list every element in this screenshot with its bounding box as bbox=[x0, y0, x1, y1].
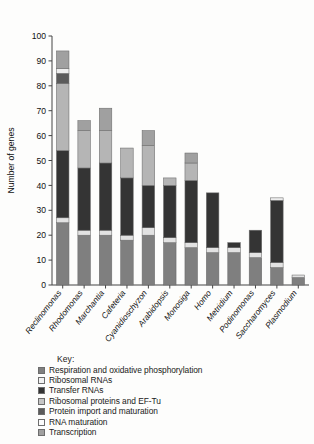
legend-swatch-icon bbox=[38, 419, 45, 426]
y-axis-tick-label: 50 bbox=[36, 156, 46, 166]
bar-segment bbox=[78, 121, 91, 131]
legend-item: Ribosomal RNAs bbox=[38, 375, 308, 385]
y-axis-tick-label: 10 bbox=[36, 255, 46, 265]
bar-segment bbox=[56, 223, 68, 285]
y-axis-tick-label: 30 bbox=[36, 205, 46, 215]
bar-segment bbox=[56, 218, 68, 223]
y-axis-tick-label: 60 bbox=[36, 131, 46, 141]
bar-segment bbox=[249, 253, 261, 258]
legend-swatch-icon bbox=[38, 377, 45, 384]
bar-segment bbox=[271, 198, 284, 200]
bar-segment bbox=[206, 193, 219, 248]
bar-stack bbox=[99, 108, 112, 285]
bar-segment bbox=[271, 268, 284, 285]
bar-stack bbox=[249, 230, 261, 285]
chart-legend: Key: Respiration and oxidative phosphory… bbox=[0, 348, 314, 444]
legend-item-label: Transcription bbox=[49, 428, 96, 437]
bar-stack bbox=[56, 51, 68, 285]
legend-swatch-icon bbox=[38, 408, 45, 415]
bar-segment bbox=[142, 228, 155, 235]
bar-segment bbox=[99, 235, 112, 285]
legend-item-label: Ribosomal RNAs bbox=[49, 376, 112, 385]
legend-item: RNA maturation bbox=[38, 417, 308, 427]
bar-segment bbox=[56, 83, 68, 150]
bar-stack bbox=[78, 121, 91, 285]
legend-item: Respiration and oxidative phosphorylatio… bbox=[38, 365, 308, 375]
bar-segment bbox=[99, 131, 112, 163]
bar-stack bbox=[228, 243, 241, 285]
y-axis-tick-label: 80 bbox=[36, 81, 46, 91]
bar-segment bbox=[185, 248, 198, 285]
legend-swatch-icon bbox=[38, 398, 45, 405]
bar-segment bbox=[185, 243, 198, 248]
bar-segment bbox=[164, 178, 177, 185]
bar-stack bbox=[164, 178, 177, 285]
bar-segment bbox=[206, 248, 219, 253]
legend-item-label: Transfer RNAs bbox=[49, 386, 103, 395]
legend-item: Transfer RNAs bbox=[38, 386, 308, 396]
bar-segment bbox=[56, 73, 68, 83]
bar-segment bbox=[78, 230, 91, 235]
chart-canvas: 0102030405060708090100Number of genesRec… bbox=[0, 0, 314, 348]
bar-segment bbox=[164, 238, 177, 243]
bar-stack bbox=[142, 131, 155, 285]
bar-segment bbox=[121, 235, 134, 240]
bar-segment bbox=[164, 185, 177, 237]
bar-segment bbox=[121, 240, 134, 285]
bar-segment bbox=[164, 243, 177, 285]
bar-segment bbox=[78, 235, 91, 285]
legend-swatch-icon bbox=[38, 367, 45, 374]
legend-swatch-icon bbox=[38, 429, 45, 436]
bar-stack bbox=[185, 153, 198, 285]
legend-item-label: RNA maturation bbox=[49, 418, 107, 427]
bar-segment bbox=[228, 253, 241, 285]
y-axis-tick-label: 90 bbox=[36, 56, 46, 66]
legend-item-list: Respiration and oxidative phosphorylatio… bbox=[38, 365, 308, 438]
bar-segment bbox=[121, 148, 134, 178]
bar-segment bbox=[56, 151, 68, 218]
y-axis-tick-label: 40 bbox=[36, 181, 46, 191]
legend-item: Ribosomal proteins and EF-Tu bbox=[38, 396, 308, 406]
y-axis-tick-label: 0 bbox=[41, 280, 46, 290]
legend-item: Transcription bbox=[38, 427, 308, 437]
bar-segment bbox=[56, 51, 68, 68]
bar-segment bbox=[142, 235, 155, 285]
bar-segment bbox=[99, 230, 112, 235]
bar-segment bbox=[292, 275, 305, 277]
bar-segment bbox=[99, 163, 112, 230]
bar-segment bbox=[142, 185, 155, 227]
bar-segment bbox=[78, 131, 91, 168]
bar-stack bbox=[121, 148, 134, 285]
bar-segment bbox=[56, 68, 68, 73]
bar-segment bbox=[142, 131, 155, 146]
legend-item-label: Protein import and maturation bbox=[49, 407, 158, 416]
bar-segment bbox=[99, 108, 112, 130]
legend-item-label: Respiration and oxidative phosphorylatio… bbox=[49, 366, 202, 375]
bar-segment bbox=[271, 200, 284, 262]
bar-stack bbox=[292, 275, 305, 285]
legend-item-label: Ribosomal proteins and EF-Tu bbox=[49, 397, 161, 406]
bar-segment bbox=[271, 263, 284, 268]
bar-segment bbox=[206, 253, 219, 285]
bar-segment bbox=[228, 248, 241, 253]
legend-item: Protein import and maturation bbox=[38, 407, 308, 417]
bar-segment bbox=[121, 178, 134, 235]
legend-swatch-icon bbox=[38, 387, 45, 394]
bar-segment bbox=[142, 146, 155, 186]
bar-segment bbox=[185, 163, 198, 180]
bar-chart: 0102030405060708090100Number of genesRec… bbox=[0, 0, 314, 348]
y-axis-tick-label: 20 bbox=[36, 230, 46, 240]
bar-segment bbox=[228, 243, 241, 248]
bar-segment bbox=[292, 278, 305, 285]
bar-segment bbox=[185, 153, 198, 163]
y-axis-tick-label: 100 bbox=[32, 31, 47, 41]
legend-title: Key: bbox=[57, 354, 74, 364]
bar-stack bbox=[271, 198, 284, 285]
bar-stack bbox=[206, 193, 219, 285]
bar-segment bbox=[249, 230, 261, 252]
bar-segment bbox=[78, 168, 91, 230]
y-axis-title: Number of genes bbox=[6, 128, 16, 194]
bar-segment bbox=[249, 258, 261, 285]
y-axis-tick-label: 70 bbox=[36, 106, 46, 116]
bar-segment bbox=[185, 180, 198, 242]
